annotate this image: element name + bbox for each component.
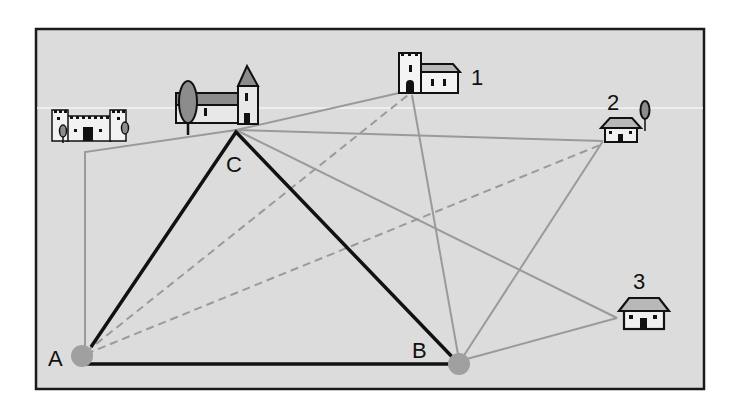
landmark-label-2: 2: [607, 90, 619, 115]
triangulation-diagram: A B C: [0, 0, 731, 415]
vertex-label-a: A: [48, 346, 63, 371]
landmark-label-3: 3: [633, 269, 645, 294]
point-b: [448, 353, 470, 375]
house-icon: [619, 298, 669, 329]
landmark-label-1: 1: [471, 65, 483, 90]
diagram-frame: [36, 29, 704, 389]
vertex-label-c: C: [226, 152, 242, 177]
point-a: [71, 345, 93, 367]
vertex-label-b: B: [412, 338, 427, 363]
